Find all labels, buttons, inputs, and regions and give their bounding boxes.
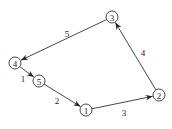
node-label: 1 bbox=[84, 106, 89, 116]
edge-2-to-3 bbox=[115, 23, 156, 90]
node-1: 1 bbox=[80, 104, 92, 116]
node-label: 2 bbox=[157, 91, 162, 101]
edge-5-to-1 bbox=[44, 84, 80, 106]
node-2: 2 bbox=[153, 89, 165, 101]
edge-label: 4 bbox=[141, 48, 146, 58]
edge-label: 5 bbox=[65, 29, 70, 39]
node-3: 3 bbox=[106, 11, 118, 23]
edge-label: 2 bbox=[55, 96, 60, 106]
nodes: 12345 bbox=[9, 11, 165, 116]
node-4: 4 bbox=[9, 57, 21, 69]
edge-1-to-2 bbox=[92, 96, 153, 108]
node-5: 5 bbox=[33, 75, 45, 87]
edge-label: 1 bbox=[21, 74, 26, 84]
edge-label: 3 bbox=[122, 108, 127, 118]
node-label: 5 bbox=[37, 77, 42, 87]
node-label: 4 bbox=[13, 59, 18, 69]
edge-3-to-4 bbox=[21, 20, 107, 61]
edges: 12345 bbox=[20, 20, 156, 118]
node-label: 3 bbox=[110, 13, 115, 23]
directed-graph: 12345 12345 bbox=[0, 0, 172, 129]
